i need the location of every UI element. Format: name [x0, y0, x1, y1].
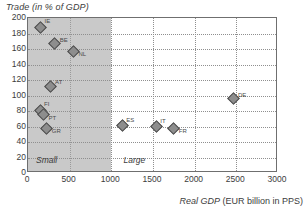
y-tick-label: 200 [0, 13, 26, 21]
gridline-vertical [153, 18, 154, 171]
x-tick-label: 3000 [257, 175, 297, 184]
gridline-horizontal [28, 142, 276, 143]
gridline-horizontal [28, 65, 276, 66]
y-tick-label: 140 [0, 60, 26, 68]
y-tick-label: 60 [0, 122, 26, 130]
y-tick-label: 120 [0, 75, 26, 83]
y-tick-label: 160 [0, 44, 26, 52]
x-tick-label: 500 [49, 175, 89, 184]
data-point-label: DE [238, 92, 246, 99]
data-point-label: ES [126, 117, 134, 124]
data-point-label: NL [78, 51, 86, 58]
x-tick-label: 0 [7, 175, 47, 184]
gridline-horizontal [28, 158, 276, 159]
x-tick-label: 2500 [215, 175, 255, 184]
x-axis-title-rest: (EUR billion in PPS) [220, 196, 303, 206]
data-point-label: FR [179, 128, 187, 135]
gridline-vertical [111, 18, 112, 171]
gridline-vertical [70, 18, 71, 171]
y-tick-label: 180 [0, 29, 26, 37]
x-axis-title-emphasis: Real GDP [179, 196, 220, 206]
gridline-horizontal [28, 49, 276, 50]
y-tick-label: 40 [0, 137, 26, 145]
gridline-horizontal [28, 80, 276, 81]
y-tick-label: 20 [0, 153, 26, 161]
region-caption-large: Large [123, 155, 145, 165]
data-point-label: BE [60, 37, 68, 44]
scatter-chart-figure: Trade (in % of GDP) 02040608010012014016… [0, 0, 307, 217]
data-point-label: AT [55, 79, 62, 86]
region-caption-small: Small [36, 155, 57, 165]
y-axis-title: Trade (in % of GDP) [6, 2, 89, 12]
x-tick-label: 2000 [174, 175, 214, 184]
y-tick-label: 80 [0, 106, 26, 114]
data-point-label: IE [45, 18, 51, 25]
gridline-vertical [195, 18, 196, 171]
y-tick-label: 100 [0, 91, 26, 99]
x-axis-title: Real GDP (EUR billion in PPS) [179, 196, 303, 206]
x-tick-label: 1500 [132, 175, 172, 184]
data-point-label: PT [48, 115, 56, 122]
gridline-horizontal [28, 111, 276, 112]
plot-area: IEBENLATFIPTGRESITFRDE Small Large [27, 17, 277, 172]
data-point-label: GR [52, 128, 61, 135]
x-tick-label: 1000 [90, 175, 130, 184]
data-point-label: FI [44, 101, 49, 108]
data-point-label: IT [160, 118, 165, 125]
gridline-horizontal [28, 34, 276, 35]
